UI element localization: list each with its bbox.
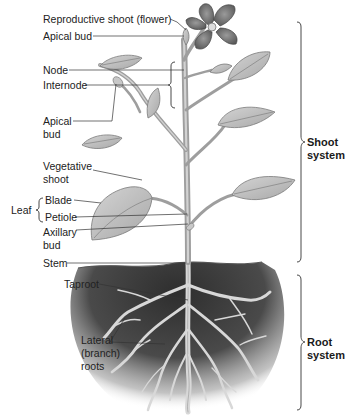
label-stem: Stem [43,257,68,269]
label-apical-bud-side-2: bud [43,128,61,140]
root-system-bracket [297,275,305,410]
label-lateral-roots-1: Lateral [81,334,113,346]
label-lateral-roots-3: roots [81,360,104,372]
label-reproductive-shoot: Reproductive shoot (flower) [43,13,171,25]
label-apical-bud-side-1: Apical [43,115,72,127]
label-node: Node [43,64,68,76]
label-axillary-bud-2: bud [43,239,61,251]
internode-bracket [168,62,175,108]
label-petiole: Petiole [45,211,77,223]
label-shoot-system-1: Shoot [307,136,338,149]
plant-diagram [0,0,353,419]
label-vegetative-shoot-2: shoot [43,173,69,185]
label-internode: Internode [43,79,87,91]
label-lateral-roots-2: (branch) [81,347,120,359]
label-taproot: Taproot [64,278,99,290]
label-root-system-2: system [307,349,345,362]
label-root-system-1: Root [307,336,332,349]
label-blade: Blade [45,194,72,206]
label-vegetative-shoot-1: Vegetative [43,160,92,172]
label-apical-bud-top: Apical bud [43,30,92,42]
label-axillary-bud-1: Axillary [43,226,77,238]
shoot-system-bracket [297,22,305,262]
label-shoot-system-2: system [307,149,345,162]
label-leaf: Leaf [11,204,31,216]
leaf-brace [36,198,43,222]
